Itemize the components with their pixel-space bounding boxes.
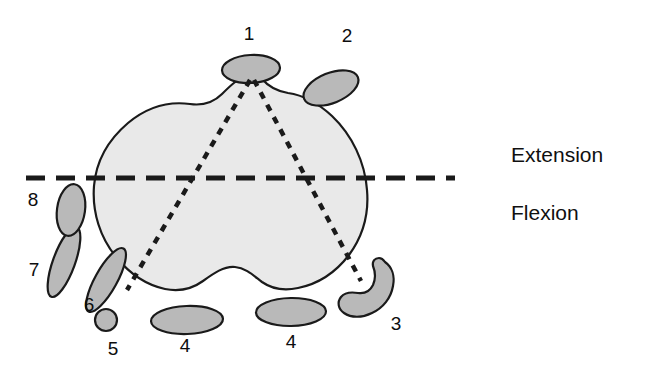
label-1: 1 (244, 23, 255, 44)
label-3: 3 (391, 313, 402, 334)
label-2: 2 (342, 25, 353, 46)
flexion-label: Flexion (511, 201, 579, 224)
label-8: 8 (28, 189, 39, 210)
label-5: 5 (108, 338, 119, 359)
label-4-right: 4 (286, 331, 297, 352)
label-4-left: 4 (180, 335, 191, 356)
structure-8-shape (54, 182, 89, 237)
structure-5-shape (95, 309, 117, 331)
label-7: 7 (29, 259, 40, 280)
structure-4-right-shape (256, 297, 326, 326)
anatomical-diagram-svg: 1 2 3 4 4 5 6 7 8 Extension Flexion (0, 0, 649, 368)
main-body-outline (94, 74, 368, 290)
figure-root: 1 2 3 4 4 5 6 7 8 Extension Flexion (0, 0, 649, 368)
structure-3-shape (339, 258, 394, 317)
structure-1-shape (221, 54, 280, 85)
label-6: 6 (84, 294, 95, 315)
structure-4-left-shape (151, 305, 224, 335)
extension-label: Extension (511, 143, 603, 166)
